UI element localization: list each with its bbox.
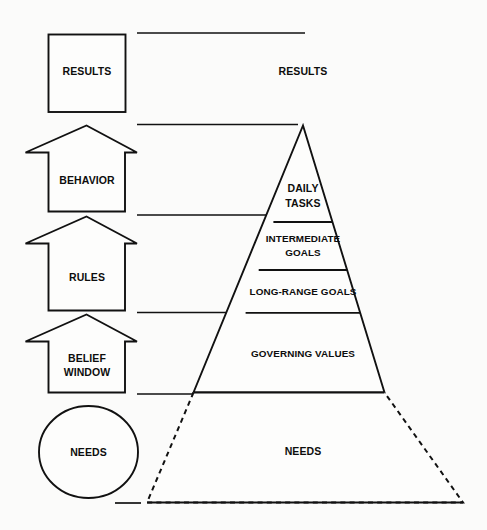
shape-rules-arrow: RULES bbox=[26, 217, 138, 311]
pyramid-label-daily-tasks-line1: DAILY bbox=[287, 182, 318, 194]
rules-arrow-outline bbox=[26, 217, 138, 311]
pyramid-label-intermediate-goals-line1: INTERMEDIATE bbox=[266, 233, 341, 244]
shape-belief-window-arrow: BELIEF WINDOW bbox=[26, 315, 138, 393]
shape-results-square: RESULTS bbox=[49, 35, 126, 113]
pyramid-label-governing-values: GOVERNING VALUES bbox=[251, 348, 355, 359]
pyramid-label-intermediate-goals-line2: GOALS bbox=[285, 247, 321, 258]
pyramid-label-daily-tasks-line2: TASKS bbox=[285, 197, 320, 209]
behavior-arrow-label: BEHAVIOR bbox=[59, 174, 115, 186]
rules-arrow-label: RULES bbox=[69, 271, 105, 283]
diagram-canvas: RESULTS BEHAVIOR RULES BELIEF WINDOW NEE… bbox=[0, 0, 487, 530]
belief-window-arrow-label-line2: WINDOW bbox=[64, 366, 111, 378]
results-square-label: RESULTS bbox=[63, 65, 112, 77]
shape-needs-circle: NEEDS bbox=[39, 406, 138, 498]
belief-window-arrow-label-line1: BELIEF bbox=[68, 352, 106, 364]
pyramid-label-needs: NEEDS bbox=[285, 445, 322, 457]
behavior-arrow-outline bbox=[26, 126, 138, 212]
shape-behavior-arrow: BEHAVIOR bbox=[26, 126, 138, 212]
pyramid-label-long-range-goals: LONG-RANGE GOALS bbox=[250, 286, 357, 297]
pyramid-results-caption: RESULTS bbox=[279, 65, 328, 77]
needs-circle-label: NEEDS bbox=[70, 446, 107, 458]
